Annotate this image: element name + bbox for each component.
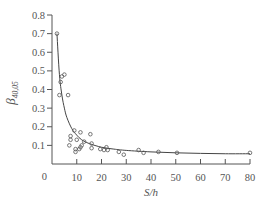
fitted-curve (57, 34, 250, 154)
y-tick-label: 0.4 (32, 84, 46, 95)
x-tick-label: 10 (72, 172, 83, 183)
data-point (90, 146, 94, 150)
x-tick-label: 20 (96, 172, 107, 183)
data-point (75, 138, 79, 142)
y-tick-label: 0.3 (32, 103, 45, 114)
x-tick-label: 50 (171, 172, 182, 183)
data-point (89, 132, 93, 136)
x-tick-label: 30 (121, 172, 132, 183)
x-tick-label: 60 (195, 172, 206, 183)
x-tick-label: 80 (245, 172, 256, 183)
y-tick-label: 0.5 (32, 65, 45, 76)
x-tick-label: 40 (146, 172, 157, 183)
chart: 0.10.20.30.40.50.60.70.8 102030405060708… (0, 0, 266, 207)
origin-label: 0 (42, 171, 47, 182)
y-tick-label: 0.7 (32, 28, 45, 39)
y-axis-title: β40,05 (3, 81, 20, 106)
x-tick-label: 70 (220, 172, 231, 183)
data-point (69, 134, 73, 138)
data-points (55, 32, 252, 157)
y-axis-title-sub: 40,05 (11, 81, 20, 98)
data-point (69, 138, 73, 142)
y-tick-label: 0.2 (32, 121, 45, 132)
x-axis-title: S/h (144, 186, 159, 198)
data-point (58, 93, 62, 97)
data-point (122, 153, 126, 157)
x-ticks: 1020304050607080 (72, 159, 256, 183)
data-point (98, 147, 102, 151)
data-point (117, 150, 121, 154)
y-tick-label: 0.6 (32, 47, 45, 58)
data-point (66, 93, 70, 97)
data-point (79, 131, 83, 135)
data-point (60, 75, 64, 79)
data-point (63, 73, 67, 77)
y-tick-label: 0.8 (32, 10, 45, 21)
y-ticks: 0.10.20.30.40.50.60.70.8 (32, 10, 52, 151)
data-point (68, 144, 72, 148)
axes (52, 15, 250, 164)
y-tick-label: 0.1 (32, 140, 45, 151)
svg-text:β40,05: β40,05 (3, 81, 20, 106)
